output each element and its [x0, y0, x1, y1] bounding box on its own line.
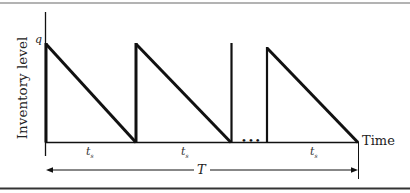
peak-label-q: q [35, 33, 42, 46]
y-axis-label-text: Inventory level [14, 37, 30, 140]
cycle-label-2: ts [181, 145, 189, 159]
sawtooth-cycle-1 [46, 43, 136, 143]
cycle-label-sub: s [314, 152, 317, 159]
total-period-label: T [197, 162, 206, 177]
ellipsis: ••• [241, 135, 262, 146]
x-axis-label: Time [362, 133, 395, 148]
cycle-label-sub: s [90, 152, 93, 159]
cycle-label-1: ts [86, 145, 94, 159]
sawtooth-cycle-2 [136, 43, 231, 143]
cycle-label-n: ts [310, 145, 318, 159]
cycle-label-sub: s [185, 152, 188, 159]
sawtooth-cycle-n [267, 47, 358, 143]
